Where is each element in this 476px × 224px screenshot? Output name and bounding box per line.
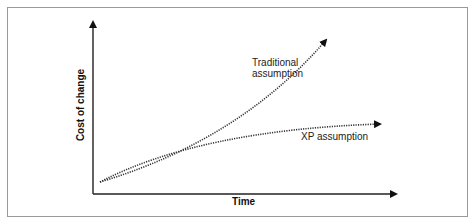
x-axis-label: Time <box>232 196 255 207</box>
y-axis-label: Cost of change <box>75 69 86 141</box>
traditional-assumption-label: Traditional assumption <box>252 57 303 79</box>
xp-assumption-label: XP assumption <box>301 131 368 142</box>
traditional-label-line2: assumption <box>252 68 303 79</box>
traditional-label-line1: Traditional <box>252 57 303 68</box>
cost-of-change-diagram <box>0 0 476 224</box>
